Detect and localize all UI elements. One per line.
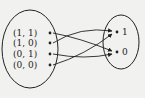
domain-dot <box>49 32 52 35</box>
codomain-dot <box>116 51 119 54</box>
codomain-ellipse <box>103 15 139 69</box>
codomain-dot <box>116 31 119 34</box>
diagram-canvas: (1, 1) (1, 0) (0, 1) (0, 0) 1 0 <box>0 0 145 98</box>
domain-label: (1, 1) <box>13 28 37 38</box>
mapping-diagram: (1, 1) (1, 0) (0, 1) (0, 0) 1 0 <box>0 0 145 98</box>
codomain-label: 0 <box>122 47 128 57</box>
codomain-elements: 1 0 <box>116 27 128 57</box>
arrow-01-to-0 <box>53 54 112 57</box>
codomain-label: 1 <box>122 27 128 37</box>
domain-label: (1, 0) <box>13 38 37 48</box>
domain-dot <box>49 64 52 67</box>
domain-label: (0, 0) <box>13 60 37 70</box>
domain-label: (0, 1) <box>13 49 37 59</box>
domain-dot <box>49 53 52 56</box>
domain-dot <box>49 42 52 45</box>
domain-elements: (1, 1) (1, 0) (0, 1) (0, 0) <box>13 28 51 70</box>
